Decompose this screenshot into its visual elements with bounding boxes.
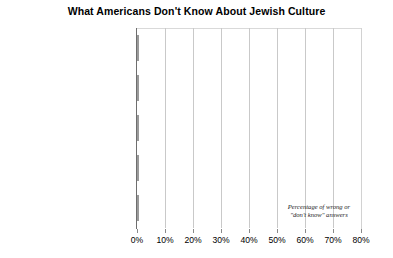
bar-row [137,35,336,61]
x-tick-mark [361,229,362,233]
bar-chart-figure: What Americans Don't Know About Jewish C… [0,0,393,258]
x-tick-mark [249,229,250,233]
x-tick-mark [137,229,138,233]
bar [137,195,139,221]
plot-right-border [361,28,362,229]
axis-annotation: Percentage of wrong or "don't know" answ… [277,203,361,218]
x-tick-mark [193,229,194,233]
x-tick-label: 80% [341,235,381,245]
axis-annotation-line-2: "don't know" answers [277,211,361,219]
bar-row [137,115,305,141]
x-tick-mark [333,229,334,233]
bar [137,115,139,141]
axis-annotation-line-1: Percentage of wrong or [277,203,361,211]
bar [137,35,139,61]
x-tick-mark [221,229,222,233]
bar-row [137,155,277,181]
bar [137,75,139,101]
bar [137,155,139,181]
plot-area [137,28,361,228]
x-tick-mark [277,229,278,233]
bar-row [137,75,313,101]
x-tick-mark [305,229,306,233]
chart-title: What Americans Don't Know About Jewish C… [0,5,393,17]
x-tick-mark [165,229,166,233]
bar-row [137,195,196,221]
